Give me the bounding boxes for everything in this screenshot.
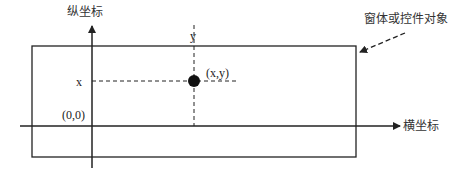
coordinate-diagram xyxy=(0,0,458,177)
point-label: (x,y) xyxy=(206,67,229,79)
x-tick-label: x xyxy=(76,76,82,88)
point-marker xyxy=(188,75,200,87)
object-pointer-arrow xyxy=(360,33,405,52)
object-label: 窗体或控件对象 xyxy=(364,13,448,25)
x-axis-label: 横坐标 xyxy=(403,120,439,132)
origin-label: (0,0) xyxy=(62,109,85,121)
y-tick-label: y xyxy=(190,30,196,42)
y-axis-label: 纵坐标 xyxy=(67,6,103,18)
